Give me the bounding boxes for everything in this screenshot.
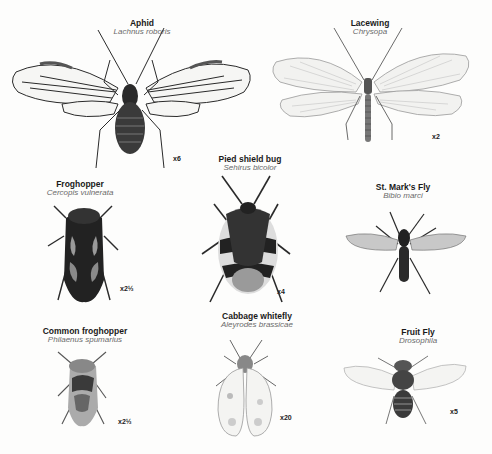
fruit-fly-scale: x5 xyxy=(450,408,458,415)
fruit-fly-illustration xyxy=(0,0,492,454)
